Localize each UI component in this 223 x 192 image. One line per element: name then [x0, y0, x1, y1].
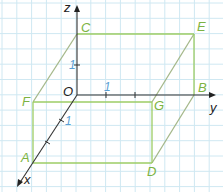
vertex-label-E: E	[197, 19, 206, 34]
vertex-labels: C E B F G A D	[20, 19, 207, 179]
x-axis-label: x	[23, 172, 31, 187]
diagram-canvas: z y x O 1 1 1 C E B F G A D	[0, 0, 223, 192]
unit-ticks	[45, 65, 135, 144]
origin-label: O	[63, 84, 73, 99]
y-axis-label: y	[209, 100, 218, 115]
coordinate-diagram: z y x O 1 1 1 C E B F G A D	[0, 0, 223, 192]
y-arrow-icon	[209, 92, 216, 98]
vertex-label-G: G	[154, 98, 164, 113]
edge-EG	[152, 34, 194, 102]
vertex-label-C: C	[81, 20, 91, 35]
box-edges	[33, 34, 194, 163]
z-axis-label: z	[63, 0, 71, 15]
z-arrow-icon	[74, 5, 80, 12]
vertex-label-B: B	[198, 80, 207, 95]
x-unit-label: 1	[65, 114, 72, 128]
vertex-label-A: A	[20, 150, 30, 165]
z-unit-label: 1	[69, 58, 76, 72]
vertex-label-D: D	[147, 164, 156, 179]
vertex-label-F: F	[22, 94, 31, 109]
y-unit-label: 1	[104, 80, 111, 94]
